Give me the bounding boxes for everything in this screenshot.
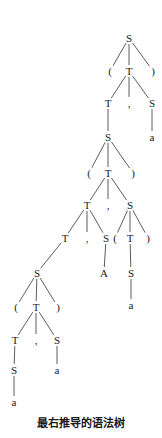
tree-node: ( bbox=[108, 65, 112, 78]
tree-edge bbox=[111, 142, 129, 168]
tree-edge bbox=[111, 178, 126, 200]
tree-edge bbox=[118, 211, 128, 233]
tree-edge bbox=[18, 312, 33, 335]
tree-node: S bbox=[128, 267, 134, 279]
tree-node: S bbox=[34, 267, 40, 279]
tree-node: ( bbox=[14, 301, 18, 314]
tree-node: ) bbox=[151, 65, 155, 78]
tree-node: ( bbox=[113, 232, 117, 245]
tree-node: S bbox=[126, 32, 132, 44]
tree-edge bbox=[111, 76, 125, 98]
tree-node: S bbox=[54, 334, 60, 346]
tree-node: S bbox=[127, 199, 133, 211]
tree-node: , bbox=[35, 334, 38, 346]
tree-node: S bbox=[105, 131, 111, 143]
tree-edge bbox=[14, 346, 15, 364]
tree-node: T bbox=[33, 301, 40, 313]
tree-node: a bbox=[12, 396, 17, 408]
tree-node: , bbox=[128, 97, 131, 109]
tree-node: S bbox=[11, 364, 17, 376]
tree-node: T bbox=[105, 167, 112, 179]
tree-edge bbox=[68, 210, 83, 233]
tree-edge bbox=[41, 243, 62, 269]
tree-node: , bbox=[107, 199, 110, 211]
tree-node: T bbox=[84, 199, 91, 211]
tree-node: T bbox=[127, 232, 134, 244]
tree-node: S bbox=[103, 232, 109, 244]
tree-edge bbox=[92, 142, 105, 167]
tree-node: a bbox=[150, 131, 155, 143]
tree-node: A bbox=[100, 267, 108, 279]
tree-nodes: S(T)T,SaS(T)T,ST,S(T)ASaS(T)T,SSaa bbox=[11, 32, 155, 408]
tree-node: T bbox=[62, 232, 69, 244]
tree-node: S bbox=[149, 97, 155, 109]
tree-edge bbox=[133, 210, 145, 232]
parse-tree: S(T)T,SaS(T)T,ST,S(T)ASaS(T)T,SSaa bbox=[0, 0, 162, 438]
tree-edge bbox=[130, 244, 131, 267]
diagram-caption: 最右推导的语法树 bbox=[0, 414, 162, 430]
tree-node: T bbox=[105, 97, 112, 109]
tree-node: ) bbox=[56, 301, 60, 314]
tree-edge bbox=[113, 43, 126, 66]
tree-edge bbox=[40, 278, 55, 302]
tree-node: ) bbox=[131, 167, 135, 180]
tree-edge bbox=[133, 43, 150, 66]
tree-edge bbox=[39, 312, 54, 335]
tree-node: a bbox=[55, 364, 60, 376]
tree-edge bbox=[36, 279, 37, 301]
tree-edge bbox=[104, 244, 105, 267]
tree-edge bbox=[19, 278, 34, 302]
tree-node: ( bbox=[87, 167, 91, 180]
tree-node: , bbox=[86, 232, 89, 244]
tree-edge bbox=[90, 210, 103, 233]
tree-edge bbox=[133, 76, 149, 98]
tree-node: T bbox=[126, 65, 133, 77]
tree-node: a bbox=[129, 299, 134, 311]
tree-edge bbox=[90, 178, 104, 200]
tree-node: T bbox=[12, 334, 19, 346]
tree-node: ) bbox=[146, 232, 150, 245]
